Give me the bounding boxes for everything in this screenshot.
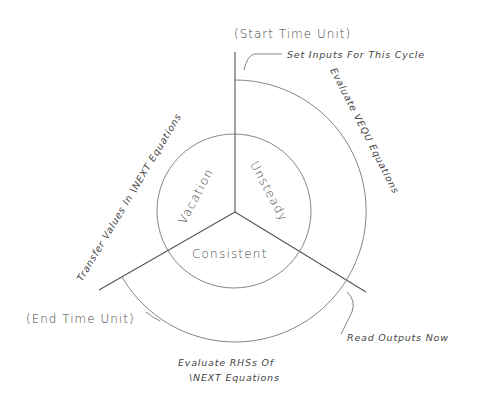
evaluate-rhs-label-line2: \NEXT Equations (189, 372, 280, 383)
outer-arc (122, 80, 366, 342)
end-time-label: (End Time Unit) (26, 312, 135, 326)
read-outputs-label: Read Outputs Now (347, 332, 449, 343)
phase-consistent-label: Consistent (192, 247, 268, 261)
phase-unsteady-label: Unsteady (247, 159, 291, 224)
leader-set-inputs (244, 54, 282, 70)
leader-read-outputs (341, 292, 353, 334)
phase-vacation-label: Vacation (175, 166, 216, 227)
simulation-cycle-diagram: (Start Time Unit) Set Inputs For This Cy… (0, 0, 489, 394)
set-inputs-label: Set Inputs For This Cycle (287, 49, 425, 60)
start-time-label: (Start Time Unit) (234, 27, 351, 41)
transfer-values-label: Transfer Values In \NEXT Equations (74, 111, 183, 283)
evaluate-rhs-label-line1: Evaluate RHSs Of (178, 357, 275, 368)
